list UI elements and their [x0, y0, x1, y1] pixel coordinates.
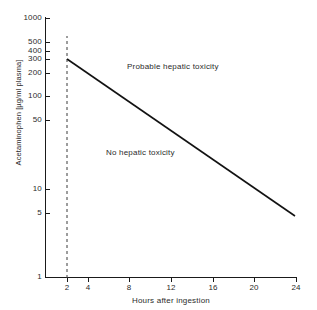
nomogram-figure: 1000 500 400 300 200 100 50 10 5 1 2 4 8…	[0, 0, 317, 310]
annotation-no-hepatic-toxicity: No hepatic toxicity	[106, 148, 175, 157]
annotation-probable-hepatic-toxicity: Probable hepatic toxicity	[127, 62, 219, 71]
treatment-threshold-line	[67, 59, 295, 216]
